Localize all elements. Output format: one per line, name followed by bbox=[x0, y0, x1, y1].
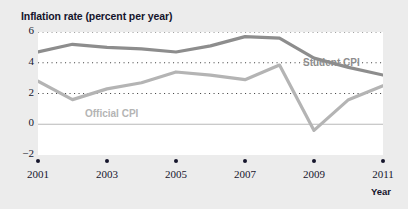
x-tick-label: 2007 bbox=[222, 168, 268, 180]
x-axis-ticks: 200120032005200720092011 bbox=[0, 168, 408, 184]
y-tick-label: 6 bbox=[12, 24, 34, 36]
series-label-official-cpi: Official CPI bbox=[85, 108, 138, 119]
plot-svg bbox=[38, 32, 383, 155]
y-tick-label: 0 bbox=[12, 116, 34, 128]
series-label-student-cpi: Student CPI bbox=[303, 57, 360, 68]
y-tick-label: 4 bbox=[12, 55, 34, 67]
x-tick-label: 2009 bbox=[291, 168, 337, 180]
x-tick-marker bbox=[36, 159, 40, 163]
x-tick-label: 2005 bbox=[153, 168, 199, 180]
x-axis-title: Year bbox=[371, 186, 391, 197]
plot-area bbox=[38, 32, 383, 155]
x-tick-marker bbox=[174, 159, 178, 163]
x-tick-marker bbox=[105, 159, 109, 163]
x-tick-marker bbox=[243, 159, 247, 163]
x-tick-label: 2011 bbox=[360, 168, 406, 180]
x-tick-marker bbox=[381, 159, 385, 163]
series-line-official-cpi bbox=[38, 65, 383, 130]
y-axis-ticks: 6420−2 bbox=[8, 32, 34, 155]
x-tick-label: 2003 bbox=[84, 168, 130, 180]
y-tick-label: 2 bbox=[12, 86, 34, 98]
x-tick-marker bbox=[312, 159, 316, 163]
chart-figure: Inflation rate (percent per year) 6420−2… bbox=[0, 0, 408, 209]
series-line-student-cpi bbox=[38, 37, 383, 75]
y-tick-label: −2 bbox=[12, 147, 34, 159]
x-tick-label: 2001 bbox=[15, 168, 61, 180]
chart-title: Inflation rate (percent per year) bbox=[21, 10, 172, 22]
